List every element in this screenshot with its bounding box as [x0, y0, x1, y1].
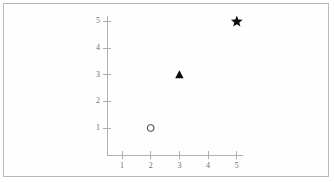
scatter-plot: 12345 12345	[0, 0, 334, 182]
y-tick-label: 1	[96, 123, 100, 132]
x-tick-label: 1	[120, 161, 124, 170]
data-points	[147, 15, 242, 131]
x-tick-label: 3	[177, 161, 181, 170]
y-tick-label: 3	[96, 70, 100, 79]
point-marker-triangle-filled	[175, 70, 183, 78]
y-tick-label: 5	[96, 16, 100, 25]
x-axis-ticks: 12345	[120, 151, 239, 170]
y-tick-label: 2	[96, 96, 100, 105]
axes	[107, 16, 243, 155]
x-tick-label: 5	[235, 161, 239, 170]
point-marker-star-filled	[231, 15, 243, 26]
y-axis-ticks: 12345	[96, 16, 111, 131]
axis-lines	[107, 16, 243, 155]
x-tick-label: 2	[149, 161, 153, 170]
x-tick-label: 4	[206, 161, 210, 170]
y-tick-label: 4	[96, 43, 100, 52]
point-marker-circle-open	[147, 125, 154, 132]
